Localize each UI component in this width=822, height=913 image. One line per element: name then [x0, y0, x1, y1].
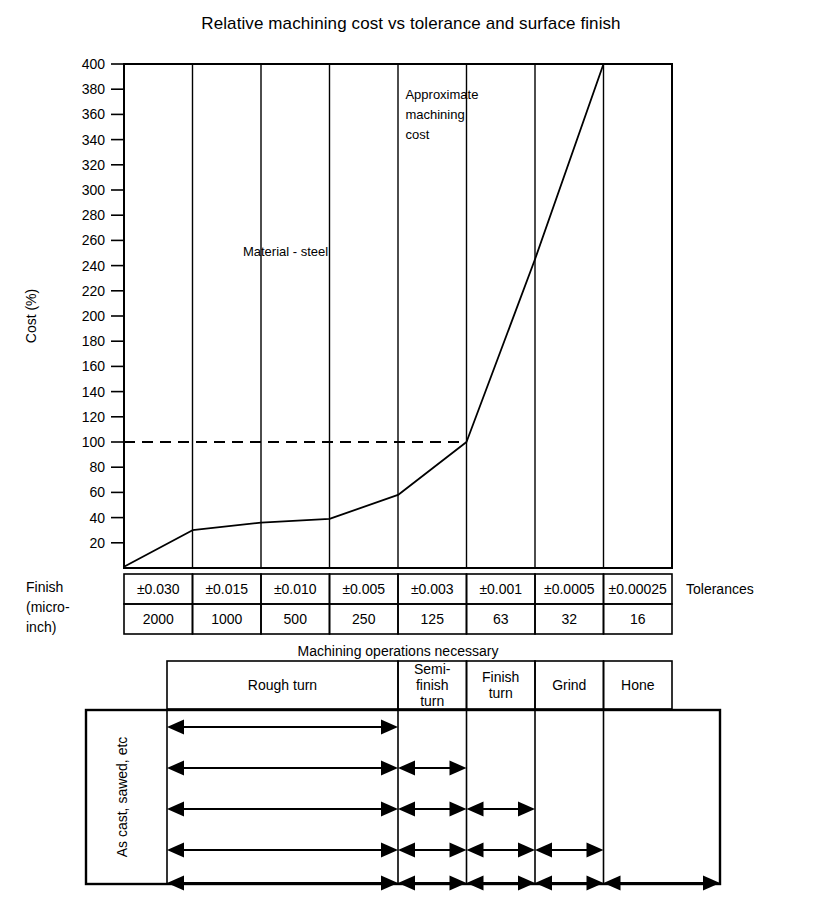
tolerance-value: ±0.015 — [205, 581, 248, 597]
plot-annotations: ApproximatemachiningcostMaterial - steel — [243, 87, 478, 258]
arrow-head-left — [167, 802, 184, 817]
arrow-head-left — [467, 843, 484, 858]
sequence-arrow — [535, 876, 604, 891]
chart-canvas: 2040608010012014016018020022024026028030… — [0, 0, 822, 913]
finish-cell: 32 — [535, 604, 604, 634]
tolerance-value: ±0.010 — [274, 581, 317, 597]
tolerance-cell: ±0.001 — [467, 574, 536, 604]
arrow-head-right — [381, 876, 398, 891]
operation-cell: Semi-finishturn — [398, 661, 467, 709]
arrow-head-right — [450, 802, 467, 817]
plot-gridlines — [193, 64, 604, 568]
y-tick-label: 300 — [82, 182, 106, 198]
tolerance-value: ±0.003 — [411, 581, 454, 597]
sequence-column-dividers — [167, 710, 604, 884]
y-tick-label: 340 — [82, 132, 106, 148]
arrow-head-left — [398, 876, 415, 891]
arrow-head-left — [167, 843, 184, 858]
tolerance-value: ±0.030 — [137, 581, 180, 597]
tolerance-cell: ±0.0005 — [535, 574, 604, 604]
operation-label: Hone — [621, 677, 655, 693]
tolerance-value: ±0.005 — [342, 581, 385, 597]
tolerance-cell: ±0.00025 — [604, 574, 673, 604]
arrow-head-right — [450, 876, 467, 891]
material-steel-note: Material - steel — [243, 244, 328, 259]
arrow-head-left — [167, 761, 184, 776]
sequence-arrow — [398, 761, 467, 776]
y-tick-label: 200 — [82, 308, 106, 324]
sequence-row-1 — [167, 720, 398, 735]
finish-value: 16 — [630, 611, 646, 627]
machining-sequence-diagram: As cast, sawed, etc — [86, 710, 720, 891]
sequence-row-2 — [167, 761, 467, 776]
y-tick-label: 80 — [89, 459, 105, 475]
finish-row-label: Finish(micro-inch) — [26, 579, 70, 635]
arrow-head-left — [604, 876, 621, 891]
y-tick-label: 160 — [82, 358, 106, 374]
finish-value: 500 — [284, 611, 308, 627]
finish-value: 1000 — [211, 611, 242, 627]
y-tick-label: 60 — [89, 484, 105, 500]
arrow-head-left — [167, 876, 184, 891]
y-axis-ticks: 2040608010012014016018020022024026028030… — [82, 56, 125, 551]
arrow-head-left — [535, 843, 552, 858]
arrow-head-left — [398, 843, 415, 858]
banner-label: Machining operations necessary — [298, 643, 499, 659]
sequence-arrow — [167, 843, 398, 858]
arrow-head-left — [398, 761, 415, 776]
y-tick-label: 120 — [82, 409, 106, 425]
sequence-arrow — [535, 843, 604, 858]
arrow-head-left — [535, 876, 552, 891]
arrow-head-right — [381, 802, 398, 817]
operation-cell: Rough turn — [167, 661, 398, 709]
finish-value: 32 — [561, 611, 577, 627]
arrow-head-right — [518, 876, 535, 891]
arrow-head-right — [381, 761, 398, 776]
finish-cell: 1000 — [193, 604, 262, 634]
finish-cell: 125 — [398, 604, 467, 634]
approximate-machining-cost-note: Approximatemachiningcost — [405, 87, 478, 142]
arrow-head-right — [587, 876, 604, 891]
arrow-head-left — [467, 802, 484, 817]
finish-cell: 2000 — [124, 604, 193, 634]
tolerance-cell: ±0.005 — [330, 574, 399, 604]
finish-cell: 250 — [330, 604, 399, 634]
tolerance-finish-table: ±0.030±0.015±0.010±0.005±0.003±0.001±0.0… — [26, 574, 754, 635]
sequence-row-5 — [167, 876, 720, 891]
y-tick-label: 320 — [82, 157, 106, 173]
y-tick-label: 240 — [82, 258, 106, 274]
tolerance-cell: ±0.003 — [398, 574, 467, 604]
finish-cell: 500 — [261, 604, 330, 634]
sequence-arrow — [398, 876, 467, 891]
tolerance-value: ±0.001 — [479, 581, 522, 597]
y-tick-label: 380 — [82, 81, 106, 97]
tolerance-cell: ±0.015 — [193, 574, 262, 604]
operation-cell: Finishturn — [467, 661, 536, 709]
sequence-arrow — [167, 720, 398, 735]
tolerance-cell: ±0.010 — [261, 574, 330, 604]
finish-cell: 63 — [467, 604, 536, 634]
tolerance-value: ±0.0005 — [544, 581, 595, 597]
tolerances-label: Tolerances — [686, 581, 754, 597]
y-tick-label: 140 — [82, 384, 106, 400]
operation-cell: Grind — [535, 661, 604, 709]
y-tick-label: 20 — [89, 535, 105, 551]
sequence-outer-box — [86, 710, 720, 884]
operation-label: Rough turn — [248, 677, 317, 693]
tolerance-value: ±0.00025 — [609, 581, 668, 597]
y-tick-label: 360 — [82, 106, 106, 122]
arrow-head-right — [381, 720, 398, 735]
sequence-arrow — [167, 802, 398, 817]
sequence-arrow — [604, 876, 721, 891]
cost-plot-area: 2040608010012014016018020022024026028030… — [23, 56, 672, 568]
arrow-head-right — [587, 843, 604, 858]
arrow-head-right — [518, 802, 535, 817]
y-axis-label: Cost (%) — [23, 289, 39, 343]
y-tick-label: 220 — [82, 283, 106, 299]
y-tick-label: 280 — [82, 207, 106, 223]
arrow-head-right — [450, 843, 467, 858]
y-tick-label: 40 — [89, 510, 105, 526]
finish-value: 250 — [352, 611, 376, 627]
finish-value: 125 — [421, 611, 445, 627]
arrow-head-right — [450, 761, 467, 776]
